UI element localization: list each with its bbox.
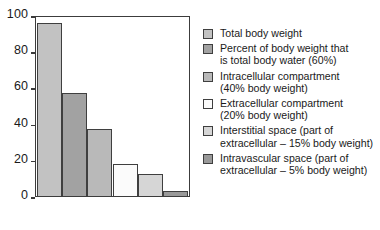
legend-item: Extracellular compartment (20% body weig… <box>203 97 380 121</box>
bar-chart-figure: 020406080100 Total body weightPercent of… <box>0 0 380 230</box>
legend-item: Intracellular compartment (40% body weig… <box>203 70 380 94</box>
bar <box>62 93 87 195</box>
y-axis-tick-label: 80 <box>14 44 28 56</box>
bar <box>163 191 188 195</box>
legend-swatch-interstitial <box>203 126 213 136</box>
y-axis-tick-label: 100 <box>7 8 28 20</box>
legend-swatch-extracellular <box>203 99 213 109</box>
y-axis-tick-label: 40 <box>14 117 28 129</box>
legend: Total body weightPercent of body weight … <box>203 27 380 179</box>
legend-item-label: Intravascular space (part of extracellul… <box>220 152 367 176</box>
y-axis: 020406080100 <box>0 16 35 197</box>
bar <box>87 129 112 196</box>
legend-swatch-intracellular <box>203 72 213 82</box>
y-axis-tick-mark <box>31 197 35 199</box>
bar <box>37 23 62 196</box>
legend-swatch-total-body-weight <box>203 29 213 39</box>
plot-area <box>35 16 190 197</box>
legend-item-label: Intracellular compartment (40% body weig… <box>220 70 340 94</box>
legend-item-label: Extracellular compartment (20% body weig… <box>220 97 343 121</box>
legend-item: Intravascular space (part of extracellul… <box>203 152 380 176</box>
legend-swatch-total-body-water <box>203 44 213 54</box>
bar <box>113 164 138 195</box>
legend-item: Percent of body weight that is total bod… <box>203 42 380 66</box>
bar-series <box>37 18 189 196</box>
bar <box>138 174 163 195</box>
legend-item-label: Total body weight <box>220 27 302 39</box>
legend-item-label: Interstitial space (part of extracellula… <box>220 124 373 148</box>
legend-item: Total body weight <box>203 27 380 39</box>
legend-swatch-intravascular <box>203 154 213 164</box>
y-axis-tick-label: 60 <box>14 80 28 92</box>
y-axis-tick-label: 20 <box>14 153 28 165</box>
legend-item: Interstitial space (part of extracellula… <box>203 124 380 148</box>
legend-item-label: Percent of body weight that is total bod… <box>220 42 348 66</box>
y-axis-tick-label: 0 <box>21 189 28 201</box>
